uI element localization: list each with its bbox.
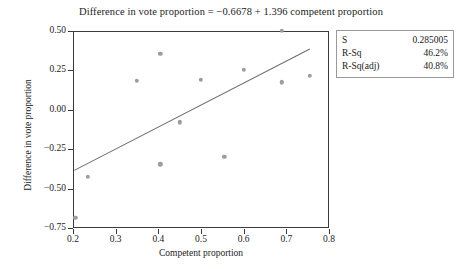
y-tick-label: 0.50 [22,25,66,35]
x-tick-mark [116,229,117,234]
y-tick-mark [68,149,73,150]
scatter-plot-figure: Difference in vote proportion = −0.6678 … [0,0,462,269]
y-tick-label: −0.50 [22,183,66,193]
x-axis-label: Competent proportion [73,248,329,258]
x-tick-mark [286,229,287,234]
y-tick-mark [68,70,73,71]
y-tick-mark [68,189,73,190]
y-tick-label: 0.00 [22,104,66,114]
statistic-value: 40.8% [423,60,448,73]
statistics-box: S0.285005R-Sq46.2%R-Sq(adj)40.8% [336,30,454,78]
x-tick-label: 0.8 [309,234,349,244]
y-tick-label: −0.75 [22,222,66,232]
statistic-value: 46.2% [423,47,448,60]
statistic-key: R-Sq [342,47,362,60]
x-tick-label: 0.2 [53,234,93,244]
plot-area [73,31,329,228]
x-tick-mark [244,229,245,234]
chart-title: Difference in vote proportion = −0.6678 … [0,6,462,17]
statistic-value: 0.285005 [412,34,448,47]
x-tick-label: 0.3 [96,234,136,244]
y-tick-label: 0.25 [22,64,66,74]
x-tick-label: 0.6 [224,234,264,244]
x-tick-mark [73,229,74,234]
x-tick-mark [158,229,159,234]
x-tick-mark [329,229,330,234]
statistic-row: R-Sq(adj)40.8% [342,60,448,73]
y-tick-label: −0.25 [22,143,66,153]
statistic-key: S [342,34,347,47]
statistic-row: R-Sq46.2% [342,47,448,60]
x-tick-label: 0.4 [138,234,178,244]
statistic-row: S0.285005 [342,34,448,47]
x-tick-label: 0.5 [181,234,221,244]
x-tick-mark [201,229,202,234]
y-tick-mark [68,110,73,111]
statistic-key: R-Sq(adj) [342,60,379,73]
x-tick-label: 0.7 [266,234,306,244]
y-tick-mark [68,31,73,32]
